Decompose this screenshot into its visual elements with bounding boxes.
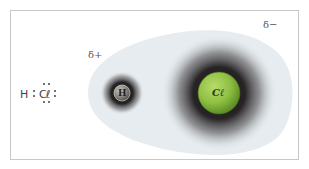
hydrogen-atom-label: H — [118, 88, 127, 98]
lewis-hydrogen: H — [20, 88, 28, 101]
lewis-chlorine: Cℓ — [39, 88, 49, 101]
partial-negative-label: δ− — [263, 20, 277, 30]
partial-positive-label: δ+ — [88, 50, 102, 60]
chlorine-atom-label: Cℓ — [212, 88, 224, 98]
